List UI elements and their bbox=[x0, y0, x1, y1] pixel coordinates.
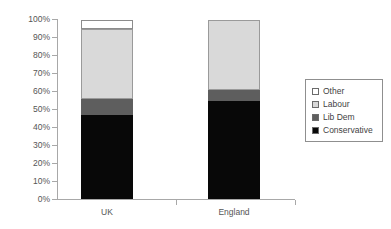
y-axis-label-0: 0% bbox=[4, 195, 50, 204]
legend-label-other: Other bbox=[323, 86, 344, 96]
stacked-bar-chart: 100% 90% 80% 70% 60% 50% 40% 30% 20% 10% bbox=[0, 0, 391, 229]
bar-uk-segment-other[interactable] bbox=[81, 20, 133, 29]
legend-swatch-lib-dem-icon bbox=[312, 114, 319, 121]
bar-uk-segment-lib-dem[interactable] bbox=[81, 99, 133, 115]
y-axis-label-30: 30% bbox=[4, 141, 50, 150]
legend-label-labour: Labour bbox=[323, 99, 349, 109]
chart-legend: Other Labour Lib Dem Conservative bbox=[305, 79, 383, 142]
bar-england-segment-lib-dem[interactable] bbox=[208, 90, 260, 101]
legend-item-lib-dem[interactable]: Lib Dem bbox=[312, 111, 377, 123]
legend-label-conservative: Conservative bbox=[323, 125, 373, 135]
y-axis-label-60: 60% bbox=[4, 87, 50, 96]
y-axis-label-20: 20% bbox=[4, 159, 50, 168]
bar-england[interactable] bbox=[208, 20, 260, 199]
bar-uk-segment-labour[interactable] bbox=[81, 29, 133, 99]
y-axis-label-90: 90% bbox=[4, 33, 50, 42]
legend-swatch-labour-icon bbox=[312, 101, 319, 108]
x-axis-label-uk: UK bbox=[81, 207, 133, 217]
legend-swatch-conservative-icon bbox=[312, 127, 319, 134]
legend-item-conservative[interactable]: Conservative bbox=[312, 124, 377, 136]
legend-swatch-other-icon bbox=[312, 88, 319, 95]
bar-uk[interactable] bbox=[81, 20, 133, 199]
legend-label-lib-dem: Lib Dem bbox=[323, 112, 355, 122]
y-axis-label-100: 100% bbox=[4, 15, 50, 24]
x-axis-tick-end bbox=[295, 200, 296, 205]
y-axis-label-70: 70% bbox=[4, 69, 50, 78]
bar-england-segment-conservative[interactable] bbox=[208, 101, 260, 199]
bar-england-segment-labour[interactable] bbox=[208, 20, 260, 90]
plot-area bbox=[57, 20, 295, 199]
y-axis-label-50: 50% bbox=[4, 105, 50, 114]
x-axis-tick-mid bbox=[176, 200, 177, 205]
y-axis-label-80: 80% bbox=[4, 51, 50, 60]
y-axis-label-10: 10% bbox=[4, 177, 50, 186]
legend-item-other[interactable]: Other bbox=[312, 85, 377, 97]
y-axis-label-40: 40% bbox=[4, 123, 50, 132]
bar-uk-segment-conservative[interactable] bbox=[81, 115, 133, 199]
legend-item-labour[interactable]: Labour bbox=[312, 98, 377, 110]
x-axis-label-england: England bbox=[200, 207, 268, 217]
